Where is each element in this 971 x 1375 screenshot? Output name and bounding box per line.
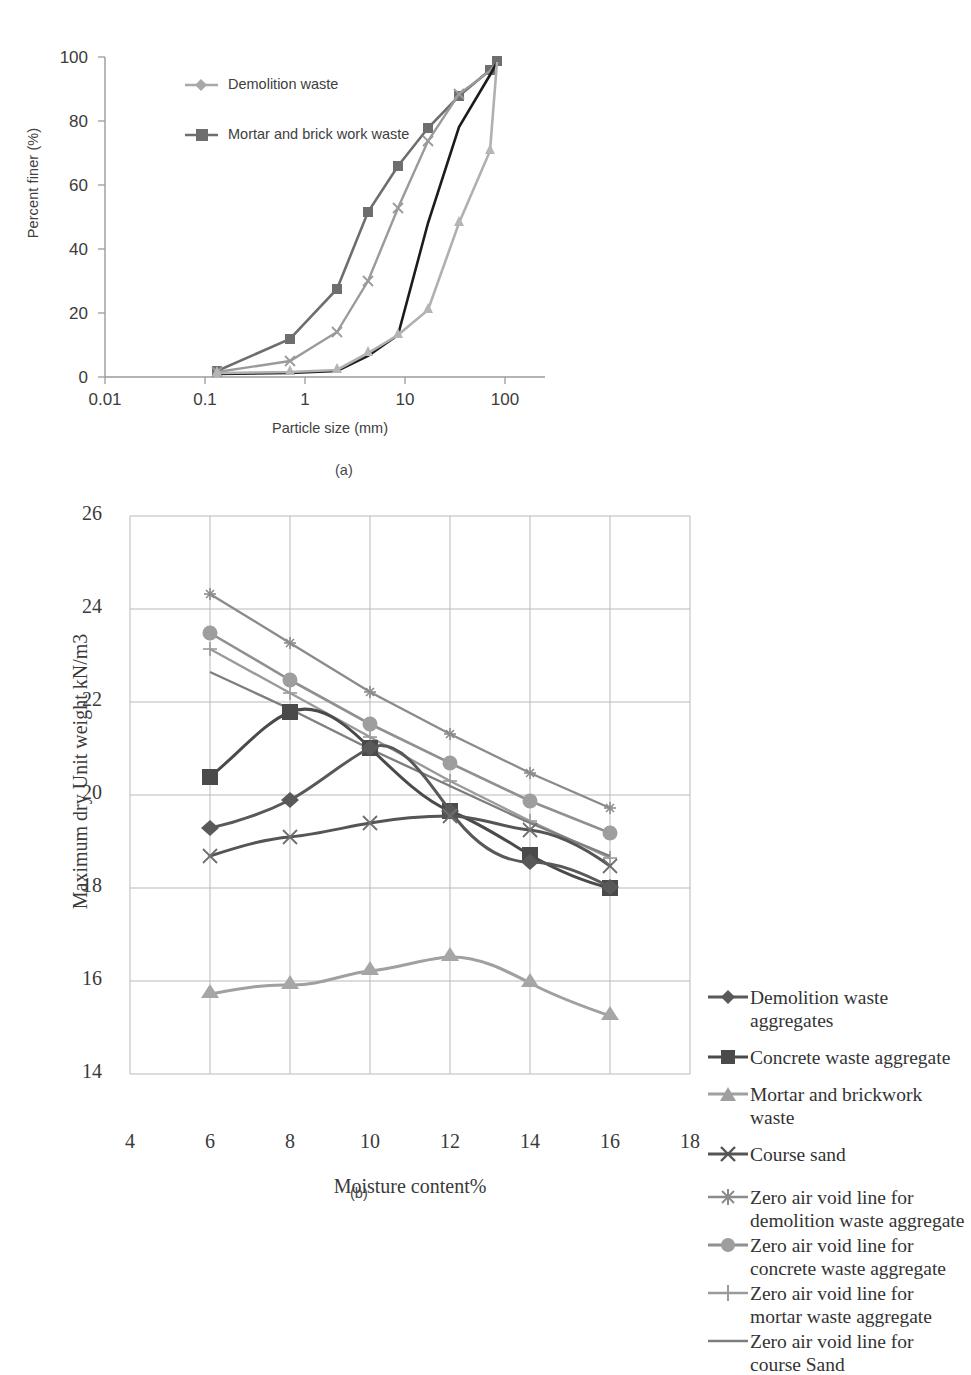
- figure-b-legend-item-demolition-waste-aggregates: Demolition waste aggregates: [706, 986, 968, 1032]
- figure-b-legend: Demolition waste aggregates Concrete was…: [706, 986, 968, 1375]
- triangle-marker-icon: [706, 1083, 750, 1105]
- figure-b: Maximum dry Unit weight kN/m3 Moisture c…: [0, 470, 971, 1249]
- figure-a-plot: [0, 0, 640, 470]
- figure-b-legend-item-mortar-brickwork-waste: Mortar and brickwork waste: [706, 1083, 968, 1129]
- figure-b-series-zav-mortar: [203, 642, 617, 865]
- figure-b-legend-item-zav-mortar: Zero air void line for mortar waste aggr…: [706, 1282, 968, 1328]
- figure-b-series-zav-concrete: [203, 626, 618, 841]
- figure-b-legend-label-5: Zero air void line for concrete waste ag…: [750, 1234, 968, 1280]
- figure-b-legend-label-6: Zero air void line for mortar waste aggr…: [750, 1282, 968, 1328]
- figure-a-series-mortar-brickwork: [212, 56, 502, 376]
- line-marker-icon: [706, 1330, 750, 1352]
- figure-b-legend-item-concrete-waste-aggregate: Concrete waste aggregate: [706, 1046, 968, 1069]
- figure-a-series-cross: [212, 62, 497, 377]
- figure-a-series-demolition: [212, 62, 497, 376]
- plus-marker-icon: [706, 1282, 750, 1304]
- figure-a-series-black: [217, 62, 497, 374]
- figure-a-legend-key-mortar: [185, 129, 218, 141]
- figure-b-legend-item-zav-course-sand: Zero air void line for course Sand: [706, 1330, 968, 1375]
- figure-a-legend-label-mortar: Mortar and brick work waste: [228, 126, 409, 142]
- figure-b-series-concrete-waste: [202, 704, 618, 896]
- figure-a-x-tick-marks: [105, 377, 505, 384]
- figure-b-legend-item-zav-concrete: Zero air void line for concrete waste ag…: [706, 1234, 968, 1280]
- figure-b-legend-label-3: Course sand: [750, 1143, 846, 1166]
- star-marker-icon: [706, 1186, 750, 1208]
- figure-b-series-zav-course-sand: [210, 672, 610, 856]
- figure-a-legend-label-demolition: Demolition waste: [228, 76, 338, 92]
- figure-a-legend-key-demolition: [185, 79, 218, 91]
- figure-b-legend-label-1: Concrete waste aggregate: [750, 1046, 950, 1069]
- figure-b-legend-label-7: Zero air void line for course Sand: [750, 1330, 968, 1375]
- figure-b-x-axis-label: Moisture content%: [230, 1175, 590, 1198]
- cross-marker-icon: [706, 1143, 750, 1165]
- figure-b-series-course-sand: [203, 809, 617, 873]
- figure-b-legend-item-course-sand: Course sand: [706, 1143, 968, 1166]
- figure-b-legend-label-0: Demolition waste aggregates: [750, 986, 968, 1032]
- figure-b-series-mortar-brickwork: [201, 947, 619, 1020]
- figure-b-legend-item-zav-demolition: Zero air void line for demolition waste …: [706, 1186, 968, 1232]
- figure-b-series-zav-demolition: [204, 588, 616, 814]
- figure-a: Percent finer (%) Particle size (mm) 0 2…: [0, 0, 640, 470]
- figure-b-legend-label-2: Mortar and brickwork waste: [750, 1083, 968, 1129]
- circle-marker-icon: [706, 1234, 750, 1256]
- figure-b-legend-label-4: Zero air void line for demolition waste …: [750, 1186, 968, 1232]
- square-marker-icon: [706, 1046, 750, 1068]
- figure-b-caption: (b): [350, 1185, 368, 1201]
- diamond-marker-icon: [706, 986, 750, 1008]
- figure-a-y-tick-marks: [98, 57, 105, 377]
